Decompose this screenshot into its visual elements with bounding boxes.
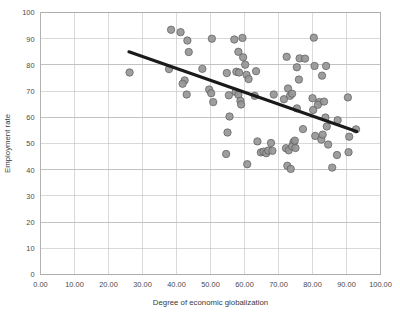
data-point bbox=[223, 69, 230, 76]
data-point bbox=[224, 129, 231, 136]
data-point bbox=[333, 151, 340, 158]
data-point bbox=[231, 36, 238, 43]
x-tick-label: 0.00 bbox=[33, 280, 47, 289]
data-point bbox=[346, 133, 353, 140]
y-tick-label: 40 bbox=[26, 166, 34, 175]
data-point bbox=[287, 165, 294, 172]
data-point bbox=[323, 123, 330, 130]
data-point bbox=[185, 48, 192, 55]
data-point bbox=[126, 69, 133, 76]
x-tick-label: 90.00 bbox=[337, 280, 356, 289]
y-tick-label: 100 bbox=[22, 8, 34, 17]
data-point bbox=[309, 94, 316, 101]
data-point bbox=[283, 53, 290, 60]
data-point bbox=[183, 91, 190, 98]
y-tick-label: 10 bbox=[26, 244, 34, 253]
data-point bbox=[254, 138, 261, 145]
data-point bbox=[301, 55, 308, 62]
data-point bbox=[267, 139, 274, 146]
x-tick-label: 100.00 bbox=[369, 280, 392, 289]
data-point bbox=[344, 94, 351, 101]
x-tick-label: 40.00 bbox=[167, 280, 186, 289]
x-tick-label: 50.00 bbox=[201, 280, 220, 289]
y-tick-label: 60 bbox=[26, 113, 34, 122]
data-point bbox=[184, 37, 191, 44]
data-point bbox=[177, 28, 184, 35]
x-axis-tick-labels: 0.0010.0020.0030.0040.0050.0060.0070.008… bbox=[33, 280, 392, 289]
data-point bbox=[239, 54, 246, 61]
data-point bbox=[245, 75, 252, 82]
x-tick-label: 60.00 bbox=[235, 280, 254, 289]
data-point bbox=[241, 61, 248, 68]
data-point bbox=[318, 72, 325, 79]
y-tick-label: 90 bbox=[26, 35, 34, 44]
scatter-chart: 0.0010.0020.0030.0040.0050.0060.0070.008… bbox=[0, 0, 400, 314]
data-point bbox=[288, 90, 295, 97]
y-tick-label: 30 bbox=[26, 192, 34, 201]
y-axis-title: Employment rate bbox=[3, 114, 12, 173]
y-tick-label: 0 bbox=[30, 270, 34, 279]
data-point bbox=[293, 64, 300, 71]
data-point bbox=[226, 113, 233, 120]
data-point bbox=[324, 141, 331, 148]
x-axis-title: Degree of economic globalization bbox=[153, 298, 268, 307]
data-point bbox=[222, 150, 229, 157]
y-tick-label: 70 bbox=[26, 87, 34, 96]
data-point bbox=[299, 125, 306, 132]
data-point bbox=[207, 90, 214, 97]
x-tick-label: 20.00 bbox=[99, 280, 118, 289]
data-point bbox=[225, 92, 232, 99]
data-points bbox=[126, 26, 360, 173]
data-point bbox=[320, 98, 327, 105]
data-point bbox=[244, 161, 251, 168]
y-tick-label: 80 bbox=[26, 61, 34, 70]
data-point bbox=[252, 67, 259, 74]
data-point bbox=[199, 65, 206, 72]
data-point bbox=[292, 144, 299, 151]
data-point bbox=[208, 35, 215, 42]
data-point bbox=[291, 137, 298, 144]
x-tick-label: 10.00 bbox=[65, 280, 84, 289]
data-point bbox=[239, 34, 246, 41]
data-point bbox=[210, 98, 217, 105]
data-point bbox=[235, 69, 242, 76]
x-tick-label: 80.00 bbox=[303, 280, 322, 289]
x-tick-label: 30.00 bbox=[133, 280, 152, 289]
chart-canvas: 0.0010.0020.0030.0040.0050.0060.0070.008… bbox=[0, 0, 400, 314]
data-point bbox=[237, 101, 244, 108]
data-point bbox=[311, 62, 318, 69]
y-tick-label: 20 bbox=[26, 218, 34, 227]
x-tick-label: 70.00 bbox=[269, 280, 288, 289]
data-point bbox=[269, 147, 276, 154]
data-point bbox=[167, 26, 174, 33]
data-point bbox=[179, 80, 186, 87]
data-point bbox=[319, 131, 326, 138]
data-point bbox=[345, 148, 352, 155]
data-point bbox=[329, 164, 336, 171]
data-point bbox=[310, 34, 317, 41]
y-tick-label: 50 bbox=[26, 139, 34, 148]
data-point bbox=[295, 76, 302, 83]
data-point bbox=[270, 91, 277, 98]
data-point bbox=[322, 62, 329, 69]
y-axis-tick-labels: 0102030405060708090100 bbox=[22, 8, 34, 279]
